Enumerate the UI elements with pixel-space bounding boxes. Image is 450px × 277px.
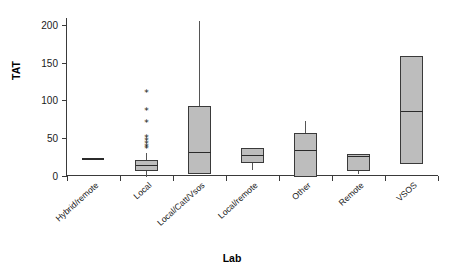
y-tick-label: 0	[52, 171, 58, 182]
outlier-marker: *	[144, 118, 149, 128]
y-tick-label: 50	[47, 133, 59, 144]
box-plot-vsos	[401, 57, 423, 164]
boxplot-chart: 050100150200 ******** Hybrid/remoteLocal…	[0, 0, 450, 277]
box-iqr	[401, 57, 423, 164]
outlier-marker: *	[144, 88, 149, 98]
outlier-marker: *	[144, 106, 149, 116]
outlier-marker: *	[144, 144, 149, 154]
box-iqr	[189, 107, 211, 174]
box-iqr	[295, 134, 317, 177]
chart-canvas: 050100150200 ******** Hybrid/remoteLocal…	[0, 0, 450, 277]
y-axis-title: TAT	[10, 61, 22, 80]
x-axis-title: Lab	[223, 252, 242, 264]
chart-background	[0, 0, 450, 277]
box-plot-remote	[348, 155, 370, 174]
y-tick-label: 150	[41, 58, 58, 69]
y-tick-label: 100	[41, 95, 58, 106]
y-tick-label: 200	[41, 20, 58, 31]
